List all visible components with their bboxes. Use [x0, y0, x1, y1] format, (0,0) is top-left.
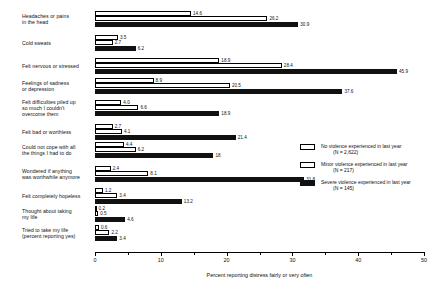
bar-value-label: 2.2	[111, 230, 117, 235]
category-label: Cold sweats	[22, 40, 92, 46]
bar	[95, 199, 182, 204]
bar-value-label: 6.2	[138, 147, 144, 152]
bar	[95, 58, 219, 63]
bar-value-label: 20.5	[232, 83, 241, 88]
bar-value-label: 18.9	[221, 111, 230, 116]
bar	[95, 124, 113, 129]
category-label-line: Felt completely hopeless	[22, 193, 92, 199]
bar-value-label: 1.2	[105, 188, 111, 193]
x-tick-major	[358, 252, 359, 256]
x-tick-major	[227, 252, 228, 256]
category-label: Felt difficulties piled upso much I coul…	[22, 99, 92, 118]
legend-item: Severe violence experienced in last year…	[300, 179, 440, 197]
bar	[95, 83, 230, 88]
bar-value-label: 45.9	[399, 69, 408, 74]
bar	[95, 135, 236, 140]
bar	[95, 129, 122, 134]
x-tick-major	[95, 252, 96, 256]
bar-value-label: 4.0	[123, 100, 129, 105]
bar	[95, 166, 111, 171]
legend-item: Minor violence experienced in last year(…	[300, 161, 440, 179]
category-label-line: Felt bad or worthless	[22, 129, 92, 135]
bar	[95, 153, 213, 158]
category-label: Headaches or painsin the head	[22, 13, 92, 25]
bar	[95, 111, 219, 116]
category-label: Feelings of sadnessor depression	[22, 80, 92, 92]
x-tick-minor	[260, 252, 261, 255]
bar-value-label: 0.5	[100, 211, 106, 216]
category-label-line: overcome them	[22, 111, 92, 117]
category-label: Tried to take my life(percent reporting …	[22, 227, 92, 239]
category-label: Could not cope with allthe things I had …	[22, 144, 92, 156]
bar	[95, 100, 121, 105]
bar-value-label: 0.2	[99, 206, 105, 211]
bar-value-label: 3.4	[119, 236, 125, 241]
category-label: Wondered if anythingwas worthwhile anymo…	[22, 168, 92, 180]
category-label-line: or depression	[22, 86, 92, 92]
legend-sample-size: (N = 217)	[333, 167, 354, 173]
category-label: Felt bad or worthless	[22, 129, 92, 135]
chart-legend: No violence experienced in last year(N =…	[300, 143, 440, 197]
bar	[95, 105, 138, 110]
bar	[95, 142, 124, 147]
category-label: Felt completely hopeless	[22, 193, 92, 199]
bar	[95, 63, 282, 68]
bar	[95, 89, 342, 94]
category-label-line: my life	[22, 214, 92, 220]
legend-swatch	[300, 144, 315, 150]
x-tick-label: 30	[282, 257, 302, 263]
bar	[95, 11, 191, 16]
x-axis-label: Percent reporting distress fairly or ver…	[95, 272, 424, 278]
category-label: Thought about takingmy life	[22, 208, 92, 220]
x-tick-label: 50	[414, 257, 434, 263]
x-tick-major	[292, 252, 293, 256]
bar	[95, 171, 148, 176]
x-tick-label: 20	[217, 257, 237, 263]
x-tick-minor	[194, 252, 195, 255]
bar	[95, 177, 304, 182]
bar	[95, 217, 125, 222]
bar-value-label: 4.6	[127, 217, 133, 222]
x-tick-major	[424, 252, 425, 256]
bar	[95, 46, 136, 51]
bar-value-label: 0.6	[101, 225, 107, 230]
bar-value-label: 18	[215, 153, 220, 158]
bar	[95, 193, 117, 198]
x-tick-major	[161, 252, 162, 256]
bar-value-label: 21.4	[238, 135, 247, 140]
bar-value-label: 3.5	[120, 35, 126, 40]
legend-swatch	[300, 162, 315, 168]
x-tick-label: 40	[348, 257, 368, 263]
category-label-line: Cold sweats	[22, 40, 92, 46]
bar	[95, 236, 117, 241]
bar	[95, 230, 109, 235]
bar-value-label: 14.6	[193, 11, 202, 16]
bar-value-label: 4.4	[126, 142, 132, 147]
bar-value-label: 18.9	[221, 58, 230, 63]
x-tick-minor	[128, 252, 129, 255]
category-label-line: Felt nervous or stressed	[22, 63, 92, 69]
bar	[95, 16, 267, 21]
category-label-line: in the head	[22, 19, 92, 25]
bar	[95, 40, 113, 45]
bar	[95, 69, 397, 74]
x-tick-minor	[391, 252, 392, 255]
bar	[95, 225, 99, 230]
bar-value-label: 4.1	[124, 129, 130, 134]
legend-sample-size: (N = 145)	[333, 185, 354, 191]
bar-value-label: 3.4	[119, 193, 125, 198]
bar	[95, 147, 136, 152]
bar-value-label: 2.7	[115, 124, 121, 129]
bar-value-label: 8.9	[156, 78, 162, 83]
bar-value-label: 26.2	[269, 16, 278, 21]
legend-sample-size: (N = 2,622)	[333, 149, 358, 155]
category-label-line: (percent reporting yes)	[22, 233, 92, 239]
bar	[95, 211, 98, 216]
bar-value-label: 2.4	[113, 166, 119, 171]
legend-item: No violence experienced in last year(N =…	[300, 143, 440, 161]
bar-value-label: 2.7	[115, 40, 121, 45]
x-tick-minor	[325, 252, 326, 255]
bar-value-label: 13.2	[184, 199, 193, 204]
legend-swatch	[300, 180, 315, 186]
bar-value-label: 28.4	[284, 63, 293, 68]
